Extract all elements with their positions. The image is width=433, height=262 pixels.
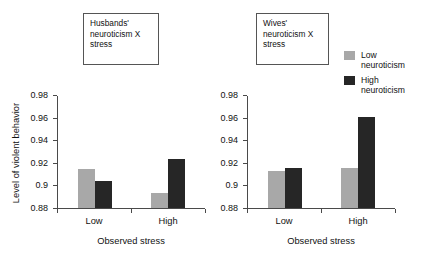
x-axis-label-wives: Observed stress bbox=[247, 236, 395, 246]
bar bbox=[95, 181, 112, 208]
x-axis-label-husbands: Observed stress bbox=[57, 236, 205, 246]
legend-item: High neuroticism bbox=[344, 75, 432, 96]
x-group-label: High bbox=[348, 216, 367, 226]
bar bbox=[268, 171, 285, 208]
x-tick bbox=[247, 209, 248, 213]
y-tick-label: 0.92 bbox=[30, 158, 48, 168]
panel-title-wives: Wives' neuroticism X stress bbox=[256, 13, 329, 65]
legend-swatch bbox=[344, 51, 355, 60]
x-group-label: Low bbox=[275, 216, 292, 226]
y-tick: 0.98 bbox=[53, 95, 57, 96]
y-tick-label: 0.9 bbox=[35, 180, 48, 190]
legend: Low neuroticismHigh neuroticism bbox=[344, 50, 432, 100]
chart-panel-husbands: Husbands' neuroticism X stress Level of … bbox=[0, 0, 216, 262]
y-tick-label: 0.94 bbox=[30, 135, 48, 145]
legend-item: Low neuroticism bbox=[344, 50, 432, 71]
y-tick: 0.92 bbox=[53, 163, 57, 164]
y-tick-label: 0.88 bbox=[220, 203, 238, 213]
bar bbox=[151, 193, 168, 208]
x-tick bbox=[131, 209, 132, 213]
y-tick-label: 0.92 bbox=[220, 158, 238, 168]
bar bbox=[285, 168, 302, 208]
bars-wives bbox=[248, 96, 395, 208]
y-axis-label-text: Level of violent behavior bbox=[12, 102, 22, 202]
legend-label: Low neuroticism bbox=[361, 50, 405, 71]
y-tick: 0.94 bbox=[243, 140, 247, 141]
legend-label: High neuroticism bbox=[361, 75, 405, 96]
bar bbox=[168, 159, 185, 208]
y-tick: 0.96 bbox=[53, 118, 57, 119]
y-tick: 0.9 bbox=[243, 185, 247, 186]
bars-husbands bbox=[58, 96, 205, 208]
y-axis-label-husbands: Level of violent behavior bbox=[10, 96, 23, 209]
legend-swatch bbox=[344, 76, 355, 85]
y-tick-label: 0.94 bbox=[220, 135, 238, 145]
x-tick bbox=[321, 209, 322, 213]
bar bbox=[341, 168, 358, 208]
y-tick-label: 0.96 bbox=[30, 113, 48, 123]
x-tick bbox=[205, 209, 206, 213]
y-tick: 0.94 bbox=[53, 140, 57, 141]
y-tick: 0.96 bbox=[243, 118, 247, 119]
y-tick-label: 0.9 bbox=[225, 180, 238, 190]
x-group-label: Low bbox=[85, 216, 102, 226]
y-tick: 0.9 bbox=[53, 185, 57, 186]
panel-title-husbands: Husbands' neuroticism X stress bbox=[83, 13, 159, 65]
y-tick: 0.92 bbox=[243, 163, 247, 164]
x-tick bbox=[57, 209, 58, 213]
y-tick-label: 0.98 bbox=[30, 90, 48, 100]
y-tick-label: 0.98 bbox=[220, 90, 238, 100]
x-group-label: High bbox=[158, 216, 177, 226]
plot-area-wives: 0.880.90.920.940.960.98 LowHigh Observed… bbox=[247, 96, 395, 209]
chart-panel-wives: Wives' neuroticism X stress 0.880.90.920… bbox=[217, 0, 433, 262]
plot-area-husbands: 0.880.90.920.940.960.98 LowHigh Observed… bbox=[57, 96, 205, 209]
x-tick bbox=[395, 209, 396, 213]
y-tick: 0.98 bbox=[243, 95, 247, 96]
bar bbox=[78, 169, 95, 208]
y-tick-label: 0.88 bbox=[30, 203, 48, 213]
bar bbox=[358, 117, 375, 208]
y-tick-label: 0.96 bbox=[220, 113, 238, 123]
